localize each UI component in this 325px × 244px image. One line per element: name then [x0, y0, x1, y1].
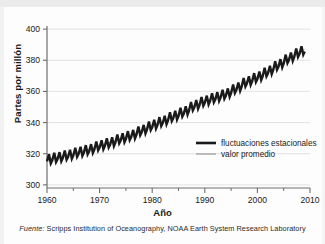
plot-area: 300320340360380400 196019701980199020002… — [0, 7, 325, 207]
y-tick-label: 340 — [26, 118, 41, 128]
x-tick-label: 1960 — [37, 195, 56, 205]
legend-label-seasonal: fluctuaciones estacionales — [221, 139, 317, 148]
legend: fluctuaciones estacionales valor promedi… — [196, 139, 317, 159]
gridlines — [47, 29, 310, 185]
y-tick-label: 400 — [26, 24, 41, 34]
y-axis-title: Partes por millón — [12, 29, 23, 139]
y-tick-label: 360 — [26, 86, 41, 96]
co2-keeling-curve-svg: 300320340360380400 196019701980199020002… — [0, 7, 325, 207]
x-tick-label: 2010 — [300, 195, 319, 205]
source-text: Scripps Institution of Oceanography, NOA… — [47, 224, 306, 233]
chart-figure: 300320340360380400 196019701980199020002… — [0, 0, 325, 244]
x-tick-label: 1990 — [195, 195, 214, 205]
y-tick-label: 300 — [26, 180, 41, 190]
x-tick-label: 1970 — [90, 195, 109, 205]
x-tick-label: 1980 — [143, 195, 162, 205]
legend-label-average: valor promedio — [221, 150, 276, 159]
source-caption: Fuente: Scripps Institution of Oceanogra… — [0, 224, 325, 233]
x-tick-label: 2000 — [248, 195, 267, 205]
source-prefix: Fuente: — [19, 224, 44, 233]
x-axis-ticks: 196019701980199020002010 — [37, 188, 319, 205]
x-axis-title: Año — [0, 207, 325, 218]
y-tick-label: 380 — [26, 55, 41, 65]
page-top-edge — [0, 0, 325, 7]
y-axis-ticks: 300320340360380400 — [26, 24, 47, 190]
y-tick-label: 320 — [26, 149, 41, 159]
